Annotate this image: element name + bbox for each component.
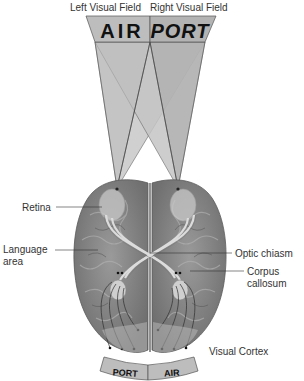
light-beams bbox=[95, 42, 205, 188]
left-eye bbox=[99, 189, 125, 221]
right-eye bbox=[170, 189, 196, 221]
optic-chiasm-label: Optic chiasm bbox=[235, 248, 293, 259]
bottom-banner-right-word: AIR bbox=[164, 367, 181, 378]
retina-label: Retina bbox=[22, 202, 51, 213]
brain bbox=[74, 180, 226, 353]
left-visual-field-label: Left Visual Field bbox=[70, 2, 141, 13]
bottom-banner-left-word: PORT bbox=[112, 367, 138, 379]
language-area-label-1: Language bbox=[3, 244, 48, 255]
corpus-callosum-label-2: callosum bbox=[247, 278, 286, 289]
right-visual-field-label: Right Visual Field bbox=[150, 2, 228, 13]
top-banner-left-word: AIR bbox=[100, 20, 143, 42]
bottom-banner: PORT AIR bbox=[100, 357, 198, 380]
visual-pathway-diagram: AIR PORT bbox=[0, 0, 304, 381]
top-banner: AIR PORT bbox=[86, 16, 216, 42]
top-banner-right-word: PORT bbox=[150, 20, 210, 42]
diagram-svg: AIR PORT bbox=[0, 0, 304, 381]
visual-cortex-label: Visual Cortex bbox=[209, 346, 268, 357]
language-area-label-2: area bbox=[3, 256, 23, 267]
corpus-callosum-label-1: Corpus bbox=[247, 266, 279, 277]
